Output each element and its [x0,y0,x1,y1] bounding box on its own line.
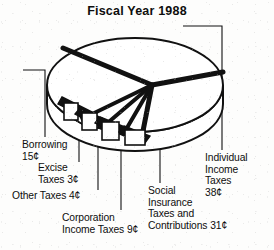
pie-chart-figure: Fiscal Year 1988 [0,0,274,250]
leader-borrowing [23,70,45,137]
label-corporation-income-taxes: Corporation Income Taxes 9¢ [62,212,138,235]
label-social-insurance: Social Insurance Taxes and Contributions… [148,185,227,231]
label-other-taxes: Other Taxes 4¢ [12,190,80,202]
label-borrowing: Borrowing 15¢ [22,139,67,162]
label-excise-taxes: Excise Taxes 3¢ [38,162,78,185]
